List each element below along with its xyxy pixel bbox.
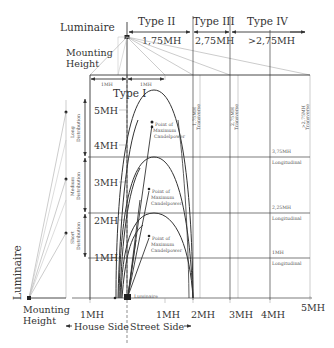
type4-range-label: >2,75MH	[248, 35, 295, 46]
svg-text:Longitudinal: Longitudinal	[272, 216, 302, 222]
svg-text:Longitudinal: Longitudinal	[272, 160, 302, 166]
left-labels: Luminaire Mounting Height	[11, 245, 70, 326]
svg-text:Maximum: Maximum	[151, 242, 175, 247]
svg-text:Transverse: Transverse	[305, 104, 310, 130]
y-tick-3mh: 3MH	[94, 177, 118, 188]
street-side-label: Street Side	[130, 321, 185, 332]
x-tick-5mh: 5MH	[301, 302, 325, 313]
type1-label: Type I	[113, 87, 146, 99]
svg-text:Candelpower: Candelpower	[151, 201, 183, 206]
longitudinal-labels: 3,75MH Longitudinal 2,25MH Longitudinal …	[272, 149, 302, 267]
short-dist-label-2: Distribution	[76, 222, 81, 250]
luminaire-small-label: Luminaire	[134, 294, 158, 299]
distribution-arrows: Long Distribution Medium Distribution Sh…	[65, 99, 86, 298]
svg-text:Maximum: Maximum	[153, 128, 177, 133]
light-distribution-diagram: Luminaire Type II Type III Type IV 1,75M…	[0, 0, 334, 348]
svg-text:Transverse: Transverse	[196, 104, 201, 130]
type4-label: Type IV	[247, 15, 288, 27]
y-tick-4mh: 4MH	[94, 140, 118, 151]
svg-text:3,75MH: 3,75MH	[272, 149, 291, 154]
x-tick-4mh: 4MH	[261, 309, 285, 320]
left-mounting-label-2: Height	[23, 315, 56, 326]
x-tick-street-1mh: 1MH	[156, 309, 180, 320]
svg-text:Maximum: Maximum	[151, 195, 175, 200]
transverse-labels: 1,75MH Transverse 2,75MH Transverse >2,7…	[192, 104, 310, 130]
svg-text:1MH: 1MH	[272, 250, 284, 255]
svg-text:Candelpower: Candelpower	[151, 248, 183, 253]
type1-width: 1MH 1MH Type I	[91, 79, 164, 99]
luminaire-base-icon	[124, 294, 131, 300]
left-fan	[29, 112, 66, 298]
left-luminaire-label: Luminaire	[11, 245, 23, 300]
svg-text:Point of: Point of	[152, 189, 170, 194]
svg-text:2,25MH: 2,25MH	[272, 205, 291, 210]
medium-dist-label-1: Medium	[70, 176, 75, 196]
type2-label: Type II	[138, 15, 176, 27]
svg-text:Candelpower: Candelpower	[154, 134, 186, 139]
mounting-height-label-1: Mounting	[66, 47, 113, 58]
y-tick-5mh: 5MH	[94, 105, 118, 116]
x-tick-2mh: 2MH	[191, 309, 215, 320]
mounting-height-label-2: Height	[66, 58, 99, 69]
type3-range-label: 2,75MH	[195, 35, 234, 46]
y-tick-1mh: 1MH	[94, 252, 118, 263]
left-mounting-label-1: Mounting	[23, 304, 70, 315]
x-tick-3mh: 3MH	[229, 309, 253, 320]
type3-label: Type III	[193, 15, 235, 27]
luminaire-label: Luminaire	[60, 21, 115, 33]
short-dist-label-1: Short	[70, 231, 75, 244]
svg-text:Transverse: Transverse	[234, 104, 239, 130]
y-tick-2mh: 2MH	[94, 215, 118, 226]
x-tick-house-1mh: 1MH	[80, 309, 104, 320]
long-dist-label-2: Distribution	[76, 114, 81, 142]
x-axis: 1MH 1MH 2MH 3MH 4MH 5MH House Side Stree…	[66, 296, 325, 332]
house-side-label: House Side	[74, 321, 129, 332]
svg-text:Point of: Point of	[155, 122, 173, 127]
svg-text:Longitudinal: Longitudinal	[272, 261, 302, 267]
medium-dist-label-2: Distribution	[76, 172, 81, 200]
svg-text:Point of: Point of	[152, 236, 170, 241]
type1-left-width-label: 1MH	[101, 82, 113, 87]
